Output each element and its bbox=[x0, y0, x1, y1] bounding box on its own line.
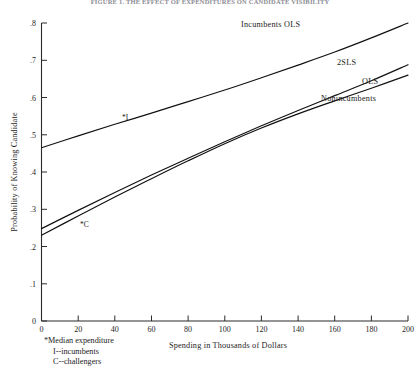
y-tick-label-0.8: .8 bbox=[30, 19, 36, 28]
x-axis-ticks bbox=[42, 316, 409, 322]
x-tick-label-20: 20 bbox=[74, 325, 82, 334]
x-tick-label-60: 60 bbox=[148, 325, 156, 334]
y-tick-label-0.7: .7 bbox=[30, 56, 36, 65]
series-label-incumbents-ols: Incumbents OLS bbox=[241, 20, 300, 29]
x-tick-label-80: 80 bbox=[184, 325, 192, 334]
annotation-median-expenditure-challengers: *C bbox=[80, 220, 89, 229]
y-tick-label-0.3: .3 bbox=[30, 205, 36, 214]
x-tick-label-100: 100 bbox=[219, 325, 231, 334]
y-tick-label-0.6: .6 bbox=[30, 94, 36, 103]
x-tick-label-160: 160 bbox=[329, 325, 341, 334]
figure-container: FIGURE 1. THE EFFECT OF EXPENDITURES ON … bbox=[0, 0, 420, 378]
footnote-line-incumbents: I--incumbents bbox=[44, 347, 114, 358]
series-line-incumbents-ols bbox=[42, 23, 409, 148]
x-tick-label-120: 120 bbox=[255, 325, 267, 334]
footnote-line-challengers: C--challengers bbox=[44, 357, 114, 368]
y-tick-label-0.5: .5 bbox=[30, 131, 36, 140]
y-axis-ticks bbox=[42, 23, 48, 321]
series-label-nonincumbents-ols: OLS bbox=[362, 77, 378, 86]
series-group-label-nonincumbents: Nonincumbents bbox=[321, 94, 376, 103]
series-label-nonincumbents-2sls: 2SLS bbox=[337, 58, 356, 67]
series-line-nonincumbents-2sls bbox=[42, 65, 409, 229]
annotation-median-expenditure-incumbents: *I bbox=[122, 113, 129, 122]
y-tick-label-0.1: .1 bbox=[30, 280, 36, 289]
y-axis-title: Probability of Knowing Candidate bbox=[10, 112, 19, 232]
x-axis-title: Spending in Thousands of Dollars bbox=[169, 341, 287, 350]
x-tick-label-200: 200 bbox=[402, 325, 414, 334]
x-tick-label-40: 40 bbox=[111, 325, 119, 334]
y-tick-label-0.4: .4 bbox=[30, 168, 36, 177]
chart-canvas: .8 .7 .6 .5 .4 .3 .2 .1 0 0 20 40 60 80 … bbox=[0, 0, 420, 378]
y-tick-label-0: 0 bbox=[32, 317, 36, 326]
x-tick-label-180: 180 bbox=[365, 325, 377, 334]
figure-footnote: *Median expenditure I--incumbents C--cha… bbox=[44, 336, 114, 368]
y-tick-label-0.2: .2 bbox=[30, 243, 36, 252]
x-tick-label-140: 140 bbox=[292, 325, 304, 334]
x-tick-label-0: 0 bbox=[40, 325, 44, 334]
footnote-line-median: *Median expenditure bbox=[44, 336, 114, 345]
